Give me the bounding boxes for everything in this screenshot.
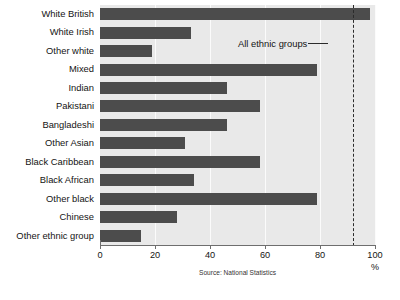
category-label: White Irish [50, 23, 94, 41]
ethnicity-bar-chart: White BritishWhite IrishOther whiteMixed… [0, 0, 400, 300]
bar-row [100, 208, 375, 226]
bar [100, 137, 185, 149]
bar [100, 82, 227, 94]
annotation-leader-line [308, 43, 328, 44]
bar-row [100, 5, 375, 23]
tick-mark [375, 245, 376, 249]
all-ethnic-groups-annotation: All ethnic groups [238, 36, 328, 50]
bar [100, 100, 260, 112]
tick-label: 40 [190, 250, 230, 260]
category-axis-labels: White BritishWhite IrishOther whiteMixed… [0, 5, 97, 245]
category-label: Black African [40, 171, 94, 189]
category-label: Other ethnic group [16, 227, 94, 245]
bar [100, 45, 152, 57]
tick-mark [100, 245, 101, 249]
category-label: Indian [68, 79, 94, 97]
bar [100, 156, 260, 168]
bar-row [100, 116, 375, 134]
bar [100, 174, 194, 186]
category-label: Other Asian [45, 134, 94, 152]
tick-label: 20 [135, 250, 175, 260]
bar [100, 27, 191, 39]
category-label: Bangladeshi [42, 116, 94, 134]
tick-label: 80 [300, 250, 340, 260]
bar-row [100, 60, 375, 78]
category-label: Mixed [69, 60, 94, 78]
tick-mark [210, 245, 211, 249]
gridline [375, 5, 376, 245]
bar [100, 64, 317, 76]
source-note: Source: National Statistics [100, 269, 375, 276]
bar-row [100, 134, 375, 152]
tick-label: 100 [355, 250, 395, 260]
bar-row [100, 171, 375, 189]
bar [100, 119, 227, 131]
bar [100, 193, 317, 205]
category-label: Black Caribbean [25, 153, 94, 171]
bar-row [100, 79, 375, 97]
tick-mark [265, 245, 266, 249]
category-label: Pakistani [56, 97, 94, 115]
bar [100, 230, 141, 242]
category-label: Other white [46, 42, 94, 60]
tick-mark [320, 245, 321, 249]
category-label: Chinese [60, 208, 94, 226]
bar-row [100, 190, 375, 208]
category-label: Other black [46, 190, 94, 208]
category-label: White British [41, 5, 94, 23]
bar-row [100, 97, 375, 115]
tick-mark [155, 245, 156, 249]
x-axis-line [100, 245, 375, 246]
bar [100, 8, 370, 20]
bar-row [100, 153, 375, 171]
tick-label: 0 [80, 250, 120, 260]
bar-row [100, 227, 375, 245]
bar [100, 211, 177, 223]
all-ethnic-groups-reference-line [353, 5, 354, 246]
annotation-label: All ethnic groups [238, 38, 307, 49]
tick-label: 60 [245, 250, 285, 260]
